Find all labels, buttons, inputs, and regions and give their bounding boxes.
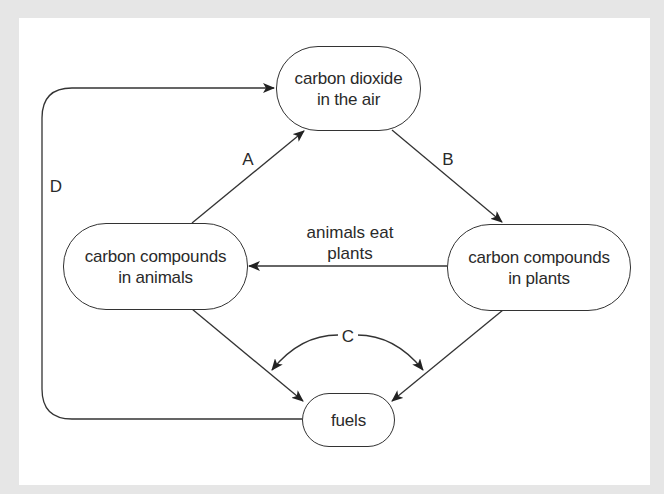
arrow-c-right xyxy=(357,335,423,370)
node-carbon-compounds-plants: carbon compounds in plants xyxy=(447,224,631,311)
node-label: carbon compounds xyxy=(85,246,226,267)
edge-label-d: D xyxy=(46,176,66,197)
edge-label-c: C xyxy=(338,326,358,347)
edge-label-a: A xyxy=(238,149,258,170)
node-label: carbon compounds xyxy=(468,247,609,268)
node-label: in plants xyxy=(508,268,570,289)
node-fuels: fuels xyxy=(302,393,395,447)
arrow-b xyxy=(392,130,502,222)
node-carbon-dioxide-air: carbon dioxide in the air xyxy=(276,46,421,131)
node-label: fuels xyxy=(331,410,366,431)
node-label: in animals xyxy=(118,267,193,288)
node-label: carbon dioxide xyxy=(295,68,403,89)
edge-label-b: B xyxy=(438,149,458,170)
node-label: in the air xyxy=(317,89,380,110)
edge-label-animals-eat-plants: animals eat plants xyxy=(290,222,410,264)
node-carbon-compounds-animals: carbon compounds in animals xyxy=(63,223,248,310)
edge-label-line: plants xyxy=(290,243,410,264)
edge-label-line: animals eat xyxy=(290,222,410,243)
arrow-c-left xyxy=(272,335,338,370)
arrow-a xyxy=(192,131,304,223)
